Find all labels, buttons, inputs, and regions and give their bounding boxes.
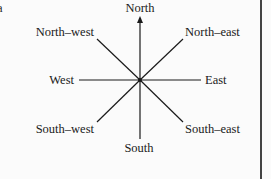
label-south-east: South–east	[185, 122, 240, 136]
ray-south-west	[97, 80, 140, 122]
north-arrowhead	[137, 16, 143, 23]
label-north-east: North–east	[185, 25, 240, 39]
ray-south-east	[140, 80, 183, 122]
corner-mark: a	[0, 1, 3, 15]
ray-north-west	[97, 39, 140, 80]
compass-diagram: a North North–east East South–east South…	[0, 0, 271, 179]
ray-north-east	[140, 39, 183, 80]
label-east: East	[205, 73, 227, 87]
label-south: South	[124, 141, 154, 155]
center-point	[138, 78, 142, 82]
label-west: West	[49, 73, 74, 87]
label-south-west: South–west	[36, 122, 95, 136]
label-north-west: North–west	[36, 25, 95, 39]
label-north: North	[125, 1, 155, 15]
